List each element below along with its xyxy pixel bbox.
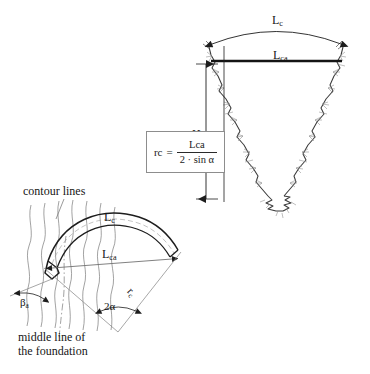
top-crack-wedge	[196, 32, 346, 219]
formula-equals-sign: =	[165, 146, 173, 158]
label-middle-line-foundation: middle line ofthe foundation	[18, 330, 88, 358]
label-arc-length-bottom: Lc	[104, 210, 115, 226]
crack-hairlines-right	[290, 52, 346, 187]
formula-numerator: Lca	[186, 139, 208, 151]
label-arc-length-top: Lc	[272, 13, 283, 29]
middle-line-text-row-2: the foundation	[18, 344, 88, 358]
arc-dimension-lc	[212, 32, 341, 45]
label-angle-2alpha: 2α	[104, 300, 115, 313]
label-angle-beta: βa	[20, 296, 29, 311]
crack-bottom	[266, 196, 291, 211]
formula-fraction: Lca 2 · sin α	[177, 139, 217, 164]
label-chord-length-bottom: Lca	[102, 247, 117, 263]
formula-left-side: rc	[154, 146, 163, 158]
crack-edge-right	[284, 47, 343, 196]
formula-box: rc = Lca 2 · sin α	[146, 131, 225, 173]
formula-denominator: 2 · sin α	[177, 153, 217, 165]
technical-figure: Lc Lca H rc = Lca 2 · sin α Lc Lca rc 2α…	[0, 0, 370, 374]
formula-expression: rc = Lca 2 · sin α	[147, 132, 224, 172]
middle-line-text-row-1: middle line of	[18, 330, 85, 344]
contour-lines	[27, 200, 116, 331]
bottom-foundation-plan	[10, 199, 181, 338]
label-contour-lines: contour lines	[23, 184, 85, 198]
height-extension-ticks	[196, 46, 224, 202]
label-chord-length-top: Lca	[273, 48, 288, 64]
contour-leader-line	[56, 199, 64, 219]
crack-edge-left	[209, 47, 268, 196]
